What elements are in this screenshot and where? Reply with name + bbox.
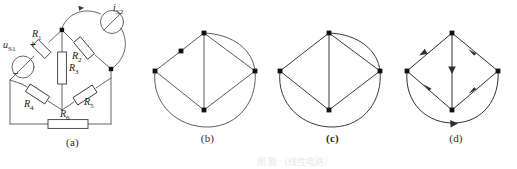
arrow-left-bot (423, 84, 431, 91)
resistor-R3-body (58, 52, 67, 84)
label-R3: R3 (69, 62, 79, 76)
label-R4: R4 (24, 98, 34, 112)
edge-bot-right (329, 71, 380, 110)
edge-top-left (407, 33, 452, 71)
edge-left-bot (407, 71, 452, 110)
graph-d-svg (395, 0, 517, 135)
edge-arc-left-right (280, 71, 381, 127)
caption-b: (b) (145, 132, 270, 144)
graph-d-arrowheads (419, 49, 476, 128)
panel-graph-c: (c) (270, 0, 395, 169)
panel-graph-d: (d) (395, 0, 517, 169)
figure-caption-ghost: 图 题 （线性电路） (205, 155, 385, 167)
edge-arc-left-right (155, 71, 256, 127)
graph-c-svg (270, 0, 395, 135)
edge-top-left (280, 33, 329, 71)
current-source-arc-left (62, 11, 101, 28)
edge-mid-left (155, 51, 181, 71)
caption-d: (d) (395, 132, 517, 144)
graph-b-nodes (153, 31, 258, 113)
edge-top-right (452, 33, 498, 71)
graph-c-nodes (278, 31, 383, 113)
label-source-current: iS2 (113, 2, 123, 16)
label-source-minus: − (13, 68, 19, 79)
wire-r5-rightrail (96, 78, 111, 88)
current-source-arc-right (113, 28, 126, 68)
label-R6: R6 (60, 108, 70, 122)
edge-top-mid (181, 33, 204, 51)
graph-b-svg (145, 0, 270, 135)
wire-r2-b (95, 55, 111, 69)
figure-container: R1 R2 R3 R4 R5 R6 uS1 + − iS2 (a) (0, 0, 517, 169)
arrow-arc-left-right (450, 120, 458, 127)
edge-bot-right (452, 71, 498, 110)
wire-leftrail-r4 (22, 84, 27, 87)
caption-c: (c) (270, 132, 395, 144)
arrow-top-bot (448, 66, 456, 74)
label-R5: R5 (84, 96, 94, 110)
panel-circuit-a: R1 R2 R3 R4 R5 R6 uS1 + − iS2 (a) (0, 0, 145, 169)
edge-bot-right (204, 71, 255, 110)
label-source-plus: + (30, 39, 36, 50)
caption-a: (a) (0, 136, 145, 148)
label-source-voltage: uS1 (3, 39, 15, 53)
current-source-slash (104, 14, 120, 30)
wire-left-node-r4 (10, 80, 22, 84)
current-direction-arrowhead (78, 6, 84, 11)
panel-graph-b: (b) (145, 0, 270, 169)
